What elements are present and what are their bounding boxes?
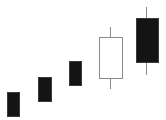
candle-3 [70,62,82,86]
candle-1 [8,93,20,117]
candle-body [8,93,20,117]
candle-2 [39,78,52,102]
candlestick-chart [0,0,166,120]
candle-body [137,19,159,63]
candle-4 [100,27,123,89]
candle-body [39,78,52,102]
candle-5 [137,7,159,75]
candle-body [100,38,123,79]
candle-body [70,62,82,86]
